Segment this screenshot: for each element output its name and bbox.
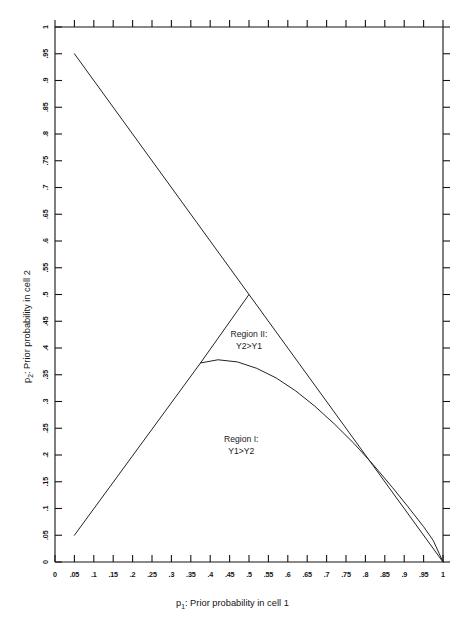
y-tick-label: 1	[41, 25, 50, 29]
y-axis-tick-labels: 0.05.1.15.2.25.3.35.4.45.5.55.6.65.7.75.…	[41, 25, 50, 564]
x-tick-label: .5	[246, 570, 252, 579]
x-tick-label: .15	[108, 570, 118, 579]
y-axis-title: p2: Prior probability in cell 2	[22, 270, 34, 383]
y-tick-label: .85	[41, 102, 50, 112]
x-tick-label: 1	[441, 570, 445, 579]
y-tick-label: .55	[41, 263, 50, 273]
region-two-label-expr: Y2>Y1	[236, 341, 262, 351]
x-tick-label: .2	[130, 570, 136, 579]
y-axis-title-text: : Prior probability in cell 2	[22, 270, 32, 374]
y-tick-label: .7	[41, 185, 50, 191]
y-tick-label: .25	[41, 423, 50, 433]
y-tick-label: .65	[41, 209, 50, 219]
x-tick-label: .45	[225, 570, 235, 579]
x-tick-label: .85	[380, 570, 390, 579]
x-tick-label: .55	[264, 570, 274, 579]
y-tick-label: .05	[41, 530, 50, 540]
x-tick-label: .65	[302, 570, 312, 579]
y-tick-label: .15	[41, 477, 50, 487]
y-tick-label: .8	[41, 131, 50, 137]
data-series-group	[74, 54, 443, 562]
x-tick-label: .3	[169, 570, 175, 579]
annotations-group: Region II:Y2>Y1Region I:Y1>Y2	[224, 329, 267, 455]
y-tick-label: .75	[41, 156, 50, 166]
svg-text:p2: Prior probability in cell: p2: Prior probability in cell 2	[22, 270, 34, 383]
x-tick-label: .7	[324, 570, 330, 579]
x-tick-label: .95	[419, 570, 429, 579]
chart-svg: 0.05.1.15.2.25.3.35.4.45.5.55.6.65.7.75.…	[0, 0, 469, 617]
y-tick-label: .35	[41, 370, 50, 380]
y-tick-label: 0	[41, 560, 50, 564]
upper-boundary-line	[74, 54, 443, 562]
figure-container: 0.05.1.15.2.25.3.35.4.45.5.55.6.65.7.75.…	[0, 0, 469, 617]
x-tick-label: .4	[207, 570, 213, 579]
y-tick-label: .3	[41, 399, 50, 405]
y-axis-ticks-right	[443, 27, 450, 562]
region-two-label: Region II:	[231, 329, 268, 339]
region-one-label: Region I:	[224, 434, 258, 444]
x-tick-label: .35	[186, 570, 196, 579]
x-tick-label: .25	[147, 570, 157, 579]
rising-boundary-line	[74, 295, 249, 536]
y-tick-label: .95	[41, 49, 50, 59]
region-divider-curve	[201, 360, 444, 562]
y-tick-label: .9	[41, 78, 50, 84]
x-axis-title-text: : Prior probability in cell 1	[185, 598, 289, 608]
y-tick-label: .5	[41, 292, 50, 298]
x-tick-label: .9	[401, 570, 407, 579]
x-axis-ticks-top	[55, 20, 443, 27]
svg-text:p1: Prior probability in cell: p1: Prior probability in cell 1	[176, 598, 289, 610]
region-one-label-expr: Y1>Y2	[228, 446, 254, 456]
y-tick-label: .4	[41, 345, 50, 351]
x-tick-label: .6	[285, 570, 291, 579]
y-tick-label: .2	[41, 452, 50, 458]
x-axis-tick-labels: 0.05.1.15.2.25.3.35.4.45.5.55.6.65.7.75.…	[53, 570, 445, 579]
y-tick-label: .1	[41, 506, 50, 512]
y-tick-label: .45	[41, 316, 50, 326]
x-tick-label: .1	[91, 570, 97, 579]
y-axis-ticks	[55, 27, 62, 562]
x-tick-label: 0	[53, 570, 57, 579]
y-tick-label: .6	[41, 238, 50, 244]
x-tick-label: .8	[363, 570, 369, 579]
x-axis-ticks	[55, 555, 443, 562]
x-tick-label: .05	[70, 570, 80, 579]
x-axis-title: p1: Prior probability in cell 1	[176, 598, 289, 610]
x-tick-label: .75	[341, 570, 351, 579]
